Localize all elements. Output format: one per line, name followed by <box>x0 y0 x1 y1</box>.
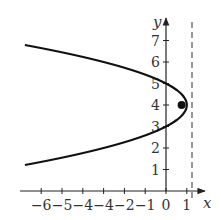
x-tick-label: 0 <box>162 197 171 213</box>
x-tick-label: −5 <box>52 197 73 213</box>
y-tick-label: 1 <box>151 162 160 178</box>
x-axis-label: x <box>203 194 212 212</box>
ticks <box>41 41 187 195</box>
y-tick-label: 7 <box>151 33 160 49</box>
parabola-curve <box>25 45 187 165</box>
x-tick-label: −1 <box>135 197 156 213</box>
x-tick-label: −2 <box>114 197 135 213</box>
x-tick-label: 1 <box>182 197 191 213</box>
curves <box>25 22 192 201</box>
focus-point <box>178 101 186 109</box>
y-tick-label: 6 <box>151 54 160 70</box>
chart: xy−6−5−4−4−2−1011234567 <box>0 0 221 220</box>
axes <box>20 18 205 191</box>
x-tick-label: −6 <box>31 197 52 213</box>
x-tick-label: −4 <box>72 197 93 213</box>
x-tick-label: −4 <box>93 197 114 213</box>
y-tick-label: 2 <box>151 140 160 156</box>
y-tick-label: 4 <box>151 97 160 113</box>
y-axis-label: y <box>152 13 162 31</box>
